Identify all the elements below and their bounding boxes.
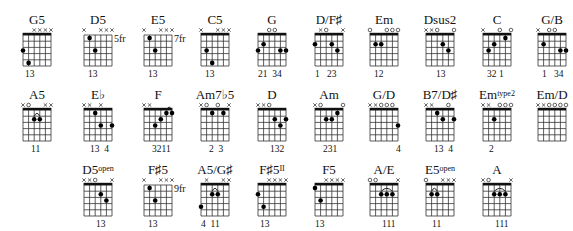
fingering-label: 13 4 bbox=[90, 144, 109, 154]
chord-diagram: D55fr13 bbox=[68, 5, 128, 80]
chord-diagram: E57fr13 bbox=[128, 5, 188, 80]
chord-diagram: D132 bbox=[242, 80, 302, 155]
finger-dot bbox=[261, 204, 266, 209]
finger-dot bbox=[210, 111, 215, 116]
open-string-icon bbox=[205, 103, 209, 107]
finger-dot bbox=[261, 42, 266, 47]
open-string-icon bbox=[435, 28, 439, 32]
open-string-icon bbox=[368, 28, 372, 32]
nut bbox=[23, 33, 52, 35]
nut bbox=[370, 108, 399, 110]
finger-dot bbox=[385, 192, 390, 197]
fingering-label: 111 bbox=[495, 219, 509, 229]
fingering-label: 12 bbox=[374, 69, 384, 79]
fingering-label: 231 bbox=[323, 144, 337, 154]
finger-dot bbox=[396, 123, 401, 128]
fretboard-grid bbox=[354, 5, 414, 80]
finger-dot bbox=[324, 117, 329, 122]
open-string-icon bbox=[93, 178, 97, 182]
finger-dot bbox=[373, 42, 378, 47]
muted-string-icon bbox=[227, 28, 230, 31]
fingering-label: 3211 bbox=[152, 144, 171, 154]
nut bbox=[483, 108, 512, 110]
muted-string-icon bbox=[256, 103, 259, 106]
fingering-label: 21 34 bbox=[258, 69, 282, 79]
muted-string-icon bbox=[374, 103, 377, 106]
chord-diagram: F♯5II13 bbox=[242, 155, 302, 230]
fingering-label: 1 34 bbox=[542, 69, 563, 79]
finger-dot bbox=[492, 117, 497, 122]
chord-diagram: A/E111 bbox=[354, 155, 414, 230]
nut bbox=[258, 183, 287, 185]
muted-string-icon bbox=[262, 103, 265, 106]
open-string-icon bbox=[27, 103, 31, 107]
finger-dot bbox=[498, 192, 503, 197]
chord-diagram: F513 bbox=[299, 155, 359, 230]
open-string-icon bbox=[396, 28, 400, 32]
fingering-label: 111 bbox=[382, 219, 396, 229]
finger-dot bbox=[379, 42, 384, 47]
muted-string-icon bbox=[222, 178, 225, 181]
nut bbox=[201, 183, 230, 185]
nut bbox=[258, 108, 287, 110]
finger-dot bbox=[38, 117, 43, 122]
muted-string-icon bbox=[279, 178, 282, 181]
muted-string-icon bbox=[227, 178, 230, 181]
chord-diagram: A111 bbox=[467, 155, 527, 230]
finger-dot bbox=[221, 111, 226, 116]
muted-string-icon bbox=[481, 103, 484, 106]
fingering-label: 13 bbox=[96, 219, 106, 229]
chord-diagram: C513 bbox=[185, 5, 245, 80]
muted-string-icon bbox=[336, 178, 339, 181]
finger-dot bbox=[452, 117, 457, 122]
muted-string-icon bbox=[99, 28, 102, 31]
finger-dot bbox=[204, 48, 209, 53]
fingering-label: 4 bbox=[396, 144, 401, 154]
fingering-label: 1 23 bbox=[315, 69, 336, 79]
finger-dot bbox=[110, 123, 115, 128]
nut bbox=[426, 183, 455, 185]
finger-dot bbox=[210, 192, 215, 197]
fretboard-grid bbox=[467, 80, 527, 155]
muted-string-icon bbox=[170, 178, 173, 181]
muted-string-icon bbox=[487, 103, 490, 106]
muted-string-icon bbox=[424, 103, 427, 106]
muted-string-icon bbox=[88, 178, 91, 181]
finger-dot bbox=[390, 192, 395, 197]
open-string-icon bbox=[509, 28, 513, 32]
muted-string-icon bbox=[509, 178, 512, 181]
finger-dot bbox=[429, 192, 434, 197]
finger-dot bbox=[99, 192, 104, 197]
muted-string-icon bbox=[21, 103, 24, 106]
chord-diagram: B7/D♯13 4 bbox=[410, 80, 470, 155]
chord-diagram: E♭13 4 bbox=[68, 80, 128, 155]
nut bbox=[84, 183, 113, 185]
finger-dot bbox=[503, 36, 508, 41]
finger-dot bbox=[216, 192, 221, 197]
muted-string-icon bbox=[430, 28, 433, 31]
open-string-icon bbox=[509, 103, 513, 107]
finger-dot bbox=[564, 48, 569, 53]
muted-string-icon bbox=[313, 103, 316, 106]
open-string-icon bbox=[216, 103, 220, 107]
muted-string-icon bbox=[110, 28, 113, 31]
muted-string-icon bbox=[49, 28, 52, 31]
finger-dot bbox=[335, 111, 340, 116]
fingering-label: 13 bbox=[88, 69, 98, 79]
finger-dot bbox=[153, 198, 158, 203]
open-string-icon bbox=[273, 28, 277, 32]
fingering-label: 11 bbox=[31, 144, 40, 154]
muted-string-icon bbox=[319, 28, 322, 31]
muted-string-icon bbox=[148, 103, 151, 106]
fingering-label: 13 bbox=[436, 69, 446, 79]
nut bbox=[426, 33, 455, 35]
chord-diagram: Dsus213 bbox=[410, 5, 470, 80]
fretboard-grid bbox=[242, 155, 302, 230]
chord-diagram: Emtype22 bbox=[467, 80, 527, 155]
finger-dot bbox=[273, 117, 278, 122]
nut bbox=[201, 33, 230, 35]
chord-diagram: G21 34 bbox=[242, 5, 302, 80]
finger-dot bbox=[486, 48, 491, 53]
chord-diagram: Em/D bbox=[522, 80, 573, 155]
finger-dot bbox=[278, 123, 283, 128]
